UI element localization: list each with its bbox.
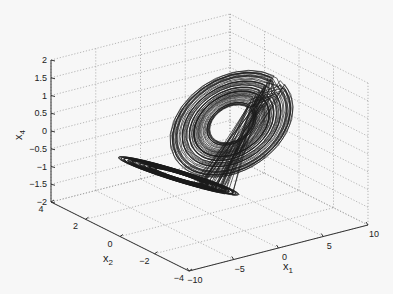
- 3d-attractor-plot: 21.510.50−0.5−1−1.5−2420−2−4−10−50510 x4…: [0, 0, 393, 294]
- tick-label: 1.5: [34, 73, 47, 83]
- tick-label: 0: [107, 239, 112, 249]
- tick-label: 4: [38, 204, 43, 214]
- x4-axis-label: x4: [12, 130, 27, 141]
- tick-label: 2: [73, 221, 78, 231]
- tick-label: −4: [174, 273, 184, 283]
- tick-label: 2: [42, 55, 47, 65]
- tick-label: −1: [37, 162, 47, 172]
- tick-label: −0.5: [29, 144, 47, 154]
- tick-label: −1.5: [29, 179, 47, 189]
- tick-label: 0: [42, 126, 47, 136]
- x1-axis-label: x1: [283, 260, 294, 275]
- tick-label: −5: [235, 264, 245, 274]
- tick-label: 1: [42, 91, 47, 101]
- tick-label: −2: [139, 256, 149, 266]
- tick-label: 10: [369, 229, 379, 239]
- tick-label: 5: [327, 241, 332, 251]
- tick-label: 0.5: [34, 108, 47, 118]
- x2-axis-label: x2: [103, 252, 114, 267]
- tick-label: −10: [187, 275, 202, 285]
